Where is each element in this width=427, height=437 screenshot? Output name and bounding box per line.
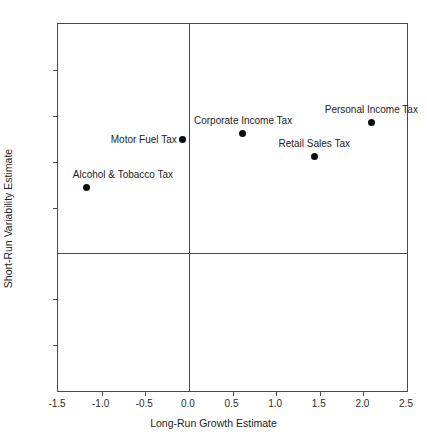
vertical-zero-reference-line bbox=[189, 24, 190, 391]
x-tick-label: 2.0 bbox=[342, 399, 382, 409]
x-axis-title: Long-Run Growth Estimate bbox=[0, 417, 427, 429]
y-tick-mark bbox=[53, 345, 58, 346]
data-point-marker bbox=[239, 130, 246, 137]
data-point-marker bbox=[311, 153, 318, 160]
y-tick-mark bbox=[53, 162, 58, 163]
x-tick-label: 0.5 bbox=[212, 399, 252, 409]
data-point-label: Retail Sales Tax bbox=[279, 138, 351, 149]
x-tick-label: -1.0 bbox=[81, 399, 121, 409]
x-tick-label: 2.5 bbox=[386, 399, 426, 409]
x-tick-label: 0.0 bbox=[168, 399, 208, 409]
y-tick-mark bbox=[53, 116, 58, 117]
x-tick-mark bbox=[320, 391, 321, 396]
x-tick-mark bbox=[102, 391, 103, 396]
x-tick-label: -1.5 bbox=[37, 399, 77, 409]
x-tick-mark bbox=[363, 391, 364, 396]
y-tick-mark bbox=[53, 70, 58, 71]
data-point-label: Alcohol & Tobacco Tax bbox=[73, 169, 173, 180]
data-point-label: Personal Income Tax bbox=[325, 104, 418, 115]
x-tick-label: 1.5 bbox=[299, 399, 339, 409]
horizontal-zero-reference-line bbox=[58, 253, 407, 254]
data-point-marker bbox=[368, 119, 375, 126]
x-tick-label: 1.0 bbox=[255, 399, 295, 409]
y-tick-mark bbox=[53, 299, 58, 300]
x-tick-label: -0.5 bbox=[124, 399, 164, 409]
x-tick-mark bbox=[276, 391, 277, 396]
data-point-marker bbox=[83, 184, 90, 191]
data-point-label: Corporate Income Tax bbox=[194, 115, 292, 126]
x-tick-mark bbox=[145, 391, 146, 396]
data-point-label: Motor Fuel Tax bbox=[111, 134, 177, 145]
x-tick-mark bbox=[233, 391, 234, 396]
y-axis-title: Short-Run Variability Estimate bbox=[0, 0, 16, 437]
scatter-chart: Alcohol & Tobacco TaxMotor Fuel TaxCorpo… bbox=[0, 0, 427, 437]
y-tick-mark bbox=[53, 208, 58, 209]
data-point-marker bbox=[179, 136, 186, 143]
plot-area: Alcohol & Tobacco TaxMotor Fuel TaxCorpo… bbox=[57, 23, 408, 392]
